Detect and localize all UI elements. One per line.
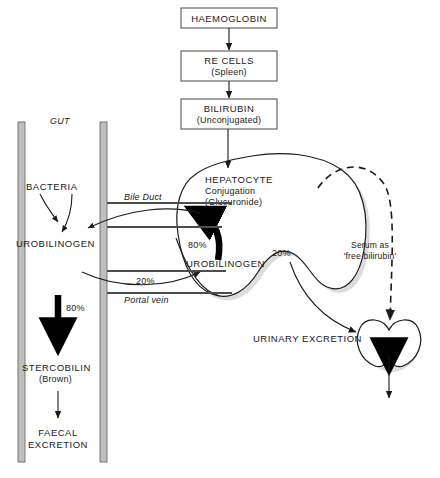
serum-label-line2: 'free bilirubin' [344, 251, 397, 261]
portal-vein-label: Portal vein [124, 295, 169, 305]
gut-percent-stercobilin: 80% [66, 303, 85, 313]
gut-label: GUT [50, 116, 71, 126]
urinary-excretion-label: URINARY EXCRETION [253, 333, 362, 344]
bilirubin-metabolism-diagram: GUT HAEMOGLOBIN RE CELLS (Spleen) BILIRU… [0, 0, 440, 478]
faecal-excretion-line1: FAECAL [38, 427, 77, 438]
serum-label-line1: Serum as [351, 240, 389, 250]
arrow-bacteria-a [40, 194, 58, 222]
faecal-excretion-line2: EXCRETION [28, 439, 88, 450]
box-re-cells-sub: (Spleen) [211, 67, 247, 77]
hepatocyte-percent-recycled: 80% [188, 240, 207, 250]
stercobilin-sub-label: (Brown) [39, 374, 72, 384]
stercobilin-label: STERCOBILIN [22, 362, 91, 373]
box-bilirubin-sub: (Unconjugated) [197, 115, 261, 125]
bile-duct-label: Bile Duct [124, 192, 162, 202]
hepatocyte-percent-systemic: 20% [272, 248, 291, 258]
arrow-bacteria-b [62, 194, 72, 232]
gut-urobilinogen-label: UROBILINOGEN [16, 238, 95, 249]
hepatocyte-conjugation-label: Conjugation [205, 186, 255, 196]
hepatocyte-label: HEPATOCYTE [205, 174, 273, 185]
diagram-canvas: GUT HAEMOGLOBIN RE CELLS (Spleen) BILIRU… [0, 0, 440, 478]
bacteria-label: BACTERIA [26, 181, 78, 192]
box-haemoglobin-label: HAEMOGLOBIN [191, 13, 267, 24]
gut-wall-right [100, 122, 107, 462]
hepatocyte-urobilinogen-label: UROBILINOGEN [186, 258, 265, 269]
box-re-cells-label: RE CELLS [204, 55, 254, 66]
gut-wall-left [18, 122, 25, 462]
box-bilirubin-label: BILIRUBIN [204, 103, 255, 114]
